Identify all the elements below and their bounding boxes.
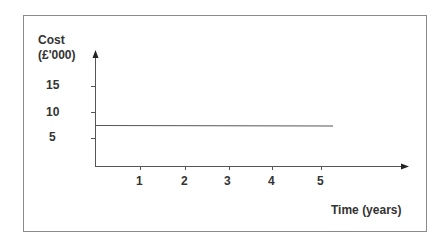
x-axis-arrow-icon: [401, 164, 409, 170]
chart-plot: [0, 0, 445, 247]
fixed-cost-line: [95, 126, 333, 127]
y-axis-arrow-icon: [93, 50, 99, 58]
